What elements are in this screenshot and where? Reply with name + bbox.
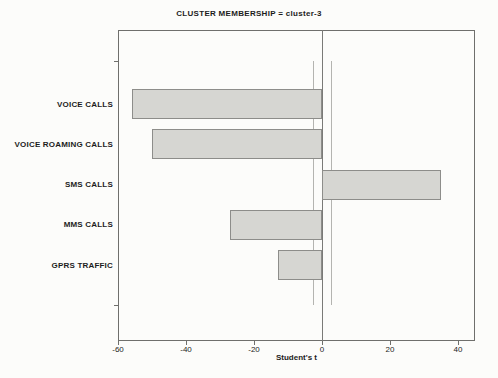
y-axis-tick — [114, 305, 118, 306]
x-tick-label: 40 — [443, 345, 473, 355]
x-tick-label: -60 — [103, 345, 133, 355]
x-tick-label: 0 — [307, 345, 337, 355]
x-tick-label: -40 — [171, 345, 201, 355]
x-tick-label: -20 — [239, 345, 269, 355]
x-tick-label: 20 — [375, 345, 405, 355]
category-label: GPRS TRAFFIC — [0, 260, 113, 271]
y-axis-tick — [114, 61, 118, 62]
bar-sms-calls — [322, 170, 441, 200]
bar-voice-roaming-calls — [152, 129, 322, 159]
bar-gprs-traffic — [278, 250, 322, 280]
category-label: SMS CALLS — [0, 179, 113, 190]
cluster-membership-bar-chart: CLUSTER MEMBERSHIP = cluster-3 Student's… — [0, 0, 498, 378]
chart-title: CLUSTER MEMBERSHIP = cluster-3 — [0, 9, 498, 18]
category-label: VOICE CALLS — [0, 99, 113, 110]
bar-mms-calls — [230, 210, 322, 240]
bar-voice-calls — [132, 89, 322, 119]
category-label: VOICE ROAMING CALLS — [0, 139, 113, 150]
category-label: MMS CALLS — [0, 219, 113, 230]
